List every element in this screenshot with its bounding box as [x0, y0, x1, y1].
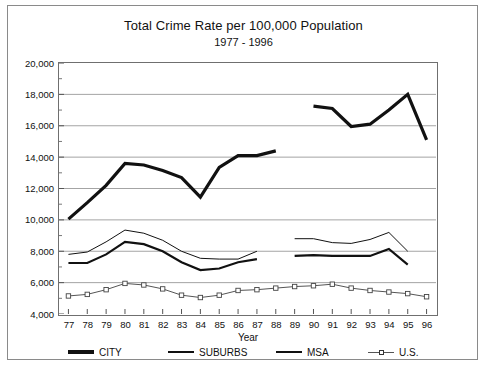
- x-tick-label: 91: [324, 319, 342, 331]
- data-point-marker: [255, 287, 259, 291]
- legend-item-suburbs[interactable]: SUBURBS: [168, 344, 247, 360]
- chart-legend: CITY SUBURBS MSA U.S.: [38, 344, 458, 362]
- x-tick-label: 78: [79, 319, 97, 331]
- legend-swatch-msa-icon: [276, 347, 302, 357]
- x-tick-label: 96: [418, 319, 436, 331]
- data-point-marker: [274, 286, 278, 290]
- series-layer: [66, 94, 429, 299]
- plot-area: [58, 62, 438, 316]
- data-point-marker: [368, 288, 372, 292]
- x-tick-label: 90: [305, 319, 323, 331]
- data-point-marker: [236, 288, 240, 292]
- x-tick-label: 95: [399, 319, 417, 331]
- data-point-marker: [85, 292, 89, 296]
- x-tick-label: 81: [135, 319, 153, 331]
- legend-swatch-city-icon: [68, 347, 94, 357]
- footer-note: [9, 364, 479, 376]
- data-point-marker: [160, 287, 164, 291]
- x-tick-label: 89: [286, 319, 304, 331]
- legend-label-suburbs: SUBURBS: [199, 347, 247, 358]
- data-point-marker: [217, 293, 221, 297]
- chart-page: Total Crime Rate per 100,000 Population …: [0, 0, 491, 378]
- data-point-marker: [198, 295, 202, 299]
- y-tick-label: 6,000: [30, 278, 54, 288]
- x-tick-label: 80: [116, 319, 134, 331]
- legend-label-us: U.S.: [399, 347, 418, 358]
- x-tick-label: 94: [380, 319, 398, 331]
- gridlines: [59, 94, 436, 282]
- data-point-marker: [104, 287, 108, 291]
- x-tick-label: 83: [173, 319, 191, 331]
- legend-item-us[interactable]: U.S.: [368, 344, 418, 360]
- data-point-marker: [424, 295, 428, 299]
- y-tick-label: 14,000: [25, 153, 54, 163]
- data-point-marker: [123, 281, 127, 285]
- legend-swatch-suburbs-icon: [168, 347, 194, 357]
- y-tick-label: 10,000: [25, 215, 54, 225]
- chart-plot-svg: [59, 63, 436, 314]
- x-tick-label: 84: [192, 319, 210, 331]
- chart-title: Total Crime Rate per 100,000 Population: [8, 18, 479, 33]
- x-tick-label: 85: [211, 319, 229, 331]
- x-tick-label: 79: [98, 319, 116, 331]
- data-point-marker: [292, 284, 296, 288]
- legend-label-city: CITY: [99, 347, 122, 358]
- x-axis-ticks: [68, 309, 426, 314]
- data-point-marker: [330, 282, 334, 286]
- data-point-marker: [349, 286, 353, 290]
- legend-label-msa: MSA: [307, 347, 329, 358]
- data-point-marker: [387, 290, 391, 294]
- y-tick-label: 12,000: [25, 184, 54, 194]
- x-axis-title: Year: [58, 332, 438, 343]
- x-axis-tick-labels: 7778798081828384858687888990919293949596: [58, 319, 438, 333]
- x-tick-label: 93: [362, 319, 380, 331]
- chart-subtitle: 1977 - 1996: [8, 36, 479, 48]
- data-point-marker: [142, 283, 146, 287]
- legend-item-city[interactable]: CITY: [68, 344, 122, 360]
- y-tick-label: 4,000: [30, 310, 54, 320]
- y-tick-label: 16,000: [25, 121, 54, 131]
- legend-swatch-us-icon: [368, 347, 394, 357]
- data-point-marker: [311, 284, 315, 288]
- x-tick-label: 92: [343, 319, 361, 331]
- data-point-marker: [179, 293, 183, 297]
- y-tick-label: 8,000: [30, 247, 54, 257]
- y-axis-tick-labels: 4,0006,0008,00010,00012,00014,00016,0001…: [8, 62, 54, 316]
- series-us: [66, 281, 429, 300]
- x-tick-label: 88: [267, 319, 285, 331]
- x-tick-label: 82: [154, 319, 172, 331]
- legend-item-msa[interactable]: MSA: [276, 344, 329, 360]
- x-tick-label: 77: [60, 319, 78, 331]
- y-tick-label: 18,000: [25, 90, 54, 100]
- y-minor-ticks: [59, 63, 64, 314]
- x-tick-label: 86: [230, 319, 248, 331]
- data-point-marker: [406, 291, 410, 295]
- figure-frame: Total Crime Rate per 100,000 Population …: [7, 5, 478, 360]
- series-suburbs: [68, 242, 407, 270]
- x-tick-label: 87: [248, 319, 266, 331]
- data-point-marker: [66, 294, 70, 298]
- y-tick-label: 20,000: [25, 59, 54, 69]
